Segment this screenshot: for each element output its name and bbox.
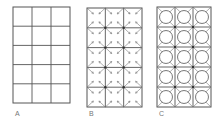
panel-b-grid-with-arrows [87,8,142,107]
panel-a-label: A [15,110,20,117]
panel-a-plain-grid [13,7,70,103]
panel-b-label: B [89,110,94,117]
diagram-canvas [0,0,222,122]
panel-c-label: C [159,110,164,117]
panel-c-grid-with-circles [157,7,211,107]
